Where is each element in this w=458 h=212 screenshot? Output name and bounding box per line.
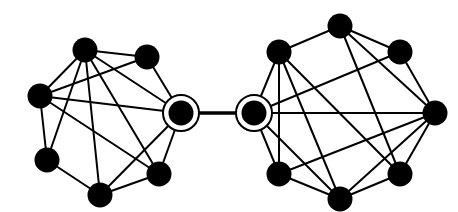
node-H <box>242 101 267 126</box>
node-O <box>267 162 292 187</box>
node-C <box>28 84 53 109</box>
node-G <box>147 162 172 187</box>
edge-L-N <box>340 113 435 199</box>
node-D <box>169 101 194 126</box>
node-M <box>388 162 413 187</box>
node-N <box>328 187 353 212</box>
node-B <box>135 45 160 70</box>
node-L <box>423 101 448 126</box>
edge-J-L <box>340 26 435 113</box>
node-F <box>88 183 113 208</box>
node-J <box>328 14 353 39</box>
node-E <box>35 148 60 173</box>
edge-L-O <box>279 113 435 174</box>
node-K <box>388 40 413 65</box>
node-A <box>73 38 98 63</box>
graph-diagram <box>0 0 458 212</box>
node-I <box>267 40 292 65</box>
